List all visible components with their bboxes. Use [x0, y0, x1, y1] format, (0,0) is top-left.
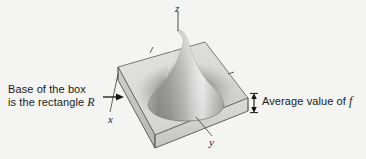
average-value-text: Average value of [262, 95, 346, 107]
surface-plot-diagram [0, 0, 366, 159]
function-f-symbol: f [349, 94, 352, 108]
axis-label-z: z [175, 2, 179, 14]
base-annotation-line2: is the rectangleR [8, 96, 95, 108]
base-annotation-line1: Base of the box [8, 83, 86, 95]
average-value-annotation: Average value off [262, 95, 352, 107]
x-axis-leader [110, 74, 118, 112]
figure-container: Base of the box is the rectangleR Averag… [0, 0, 366, 159]
base-annotation-text: is the rectangle [8, 96, 84, 108]
axis-label-x: x [108, 113, 113, 125]
axis-label-y: y [209, 136, 214, 148]
tick-mark-back-left [150, 47, 153, 53]
rectangle-r-symbol: R [87, 95, 94, 109]
average-value-measure-arrow [250, 93, 258, 113]
